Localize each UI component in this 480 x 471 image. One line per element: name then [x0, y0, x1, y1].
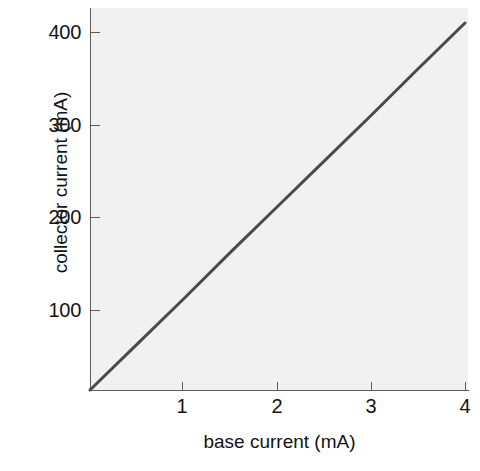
x-tick-label-2: 2: [262, 396, 292, 416]
x-tick-label-4: 4: [450, 396, 480, 416]
x-tick-label-1: 1: [167, 396, 197, 416]
x-axis-line: [90, 390, 469, 391]
y-axis-label: collector current (mA): [51, 33, 70, 333]
y-tick-100: [91, 310, 100, 311]
x-tick-4: [465, 382, 466, 391]
x-axis-label: base current (mA): [90, 432, 469, 451]
y-tick-200: [91, 217, 100, 218]
y-tick-300: [91, 125, 100, 126]
x-tick-2: [277, 382, 278, 391]
plot-area: [90, 8, 468, 390]
x-tick-3: [371, 382, 372, 391]
x-tick-1: [182, 382, 183, 391]
y-axis-line: [90, 8, 91, 391]
chart-figure: 400 300 200 100 1 2 3 4 collector curren…: [0, 0, 480, 471]
y-tick-400: [91, 32, 100, 33]
x-tick-label-3: 3: [356, 396, 386, 416]
